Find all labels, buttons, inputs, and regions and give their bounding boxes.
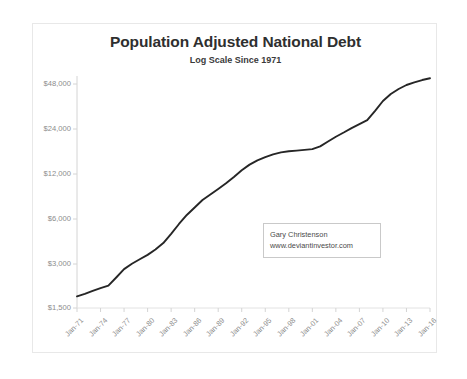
y-axis-label-6000: $6,000 [11, 214, 71, 223]
annotation-website: www.deviantinvestor.com [270, 240, 380, 251]
y-tick-marks [73, 84, 77, 308]
y-axis-label-48000: $48,000 [11, 79, 71, 88]
y-axis-label-1500: $1,500 [11, 303, 71, 312]
plot-area [33, 24, 438, 354]
annotation-box: Gary Christenson www.deviantinvestor.com [263, 223, 381, 258]
x-tick-marks [77, 308, 430, 312]
y-axis-label-24000: $24,000 [11, 124, 71, 133]
annotation-author: Gary Christenson [270, 229, 380, 240]
y-axis-label-12000: $12,000 [11, 169, 71, 178]
data-series-line [77, 78, 430, 296]
y-axis-label-3000: $3,000 [11, 259, 71, 268]
chart-card: Population Adjusted National Debt Log Sc… [32, 23, 437, 353]
